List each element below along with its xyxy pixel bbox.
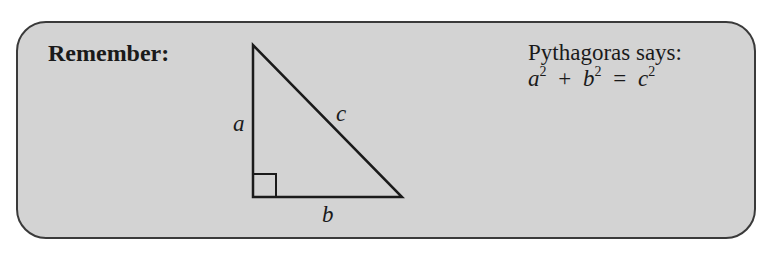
formula-a: a <box>528 66 540 91</box>
formula-b: b <box>583 66 595 91</box>
formula-c-exponent: 2 <box>648 64 655 79</box>
side-c-label: c <box>336 101 346 127</box>
formula-equals: = <box>613 66 626 91</box>
formula-plus: + <box>558 66 571 91</box>
right-angle-marker-icon <box>253 174 276 197</box>
right-triangle-diagram <box>0 0 774 254</box>
side-a-label: a <box>233 111 245 137</box>
formula-a-exponent: 2 <box>540 64 547 79</box>
pythagorean-formula: a2 + b2 = c2 <box>528 66 655 92</box>
pythagoras-caption: Pythagoras says: <box>528 40 682 66</box>
formula-b-exponent: 2 <box>594 64 601 79</box>
side-b-label: b <box>322 202 334 228</box>
formula-c: c <box>638 66 648 91</box>
